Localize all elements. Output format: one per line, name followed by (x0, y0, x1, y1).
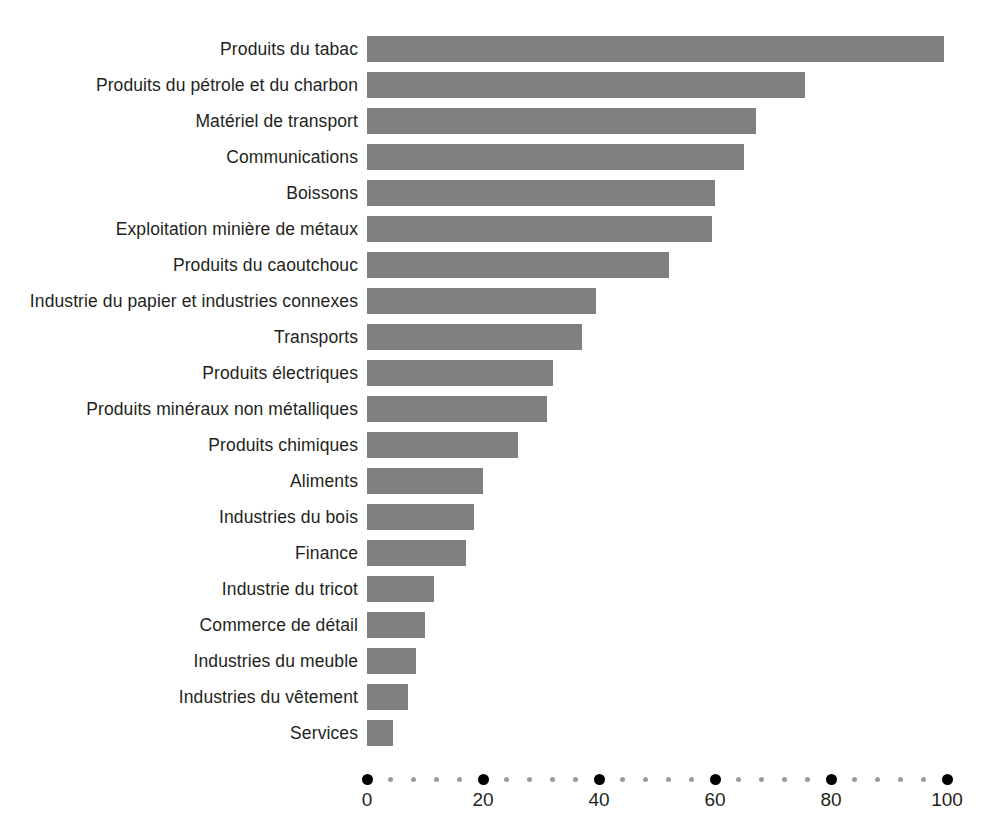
bar-row: Transports (0, 324, 990, 360)
axis-minor-tick-dot (759, 777, 764, 782)
axis-minor-tick-dot (875, 777, 880, 782)
bar (367, 684, 408, 710)
bar (367, 216, 712, 242)
bar-track (367, 684, 408, 710)
axis-minor-tick-dot (852, 777, 857, 782)
bar-row: Produits du pétrole et du charbon (0, 72, 990, 108)
bar (367, 612, 425, 638)
axis-minor-tick-dot (527, 777, 532, 782)
axis-minor-tick-dot (666, 777, 671, 782)
bar-row: Industrie du tricot (0, 576, 990, 612)
bar-category-label: Produits chimiques (208, 432, 358, 458)
bar-row: Produits du caoutchouc (0, 252, 990, 288)
bar-row: Industrie du papier et industries connex… (0, 288, 990, 324)
x-axis-tick-label: 100 (887, 789, 990, 811)
bar-row: Commerce de détail (0, 612, 990, 648)
bar-track (367, 288, 596, 314)
bar-row: Industries du vêtement (0, 684, 990, 720)
bar-category-label: Exploitation minière de métaux (116, 216, 358, 242)
bar-row: Industries du bois (0, 504, 990, 540)
bar (367, 144, 744, 170)
bar-track (367, 144, 744, 170)
bar (367, 72, 805, 98)
bar-track (367, 252, 669, 278)
x-axis-tick-label: 40 (539, 789, 659, 811)
bar-track (367, 576, 434, 602)
bar-category-label: Produits minéraux non métalliques (86, 396, 358, 422)
axis-major-tick-dot (478, 774, 489, 785)
bar-track (367, 540, 466, 566)
bar-category-label: Aliments (290, 468, 358, 494)
axis-minor-tick-dot (573, 777, 578, 782)
axis-minor-tick-dot (388, 777, 393, 782)
bar-row: Produits minéraux non métalliques (0, 396, 990, 432)
axis-minor-tick-dot (457, 777, 462, 782)
axis-minor-tick-dot (434, 777, 439, 782)
bar-track (367, 504, 474, 530)
bar (367, 540, 466, 566)
axis-major-tick-dot (594, 774, 605, 785)
bar (367, 180, 715, 206)
bar-row: Produits électriques (0, 360, 990, 396)
bar-category-label: Transports (274, 324, 358, 350)
axis-major-tick-dot (826, 774, 837, 785)
bar-category-label: Industries du bois (219, 504, 358, 530)
bar (367, 36, 944, 62)
axis-minor-tick-dot (736, 777, 741, 782)
x-axis: 020406080100 (0, 760, 990, 823)
bar-category-label: Produits du caoutchouc (173, 252, 358, 278)
bar-track (367, 216, 712, 242)
axis-minor-tick-dot (921, 777, 926, 782)
bar-row: Finance (0, 540, 990, 576)
x-axis-tick-label: 0 (307, 789, 427, 811)
bar-row: Communications (0, 144, 990, 180)
bar (367, 252, 669, 278)
bar-row: Aliments (0, 468, 990, 504)
bar (367, 720, 393, 746)
bar (367, 432, 518, 458)
bar-row: Exploitation minière de métaux (0, 216, 990, 252)
bar (367, 288, 596, 314)
bar-category-label: Finance (295, 540, 358, 566)
bar-category-label: Communications (226, 144, 358, 170)
bar-track (367, 720, 393, 746)
bar-category-label: Industrie du papier et industries connex… (30, 288, 358, 314)
bar (367, 324, 582, 350)
bar-category-label: Commerce de détail (200, 612, 358, 638)
bar-row: Boissons (0, 180, 990, 216)
bar-track (367, 180, 715, 206)
bar-category-label: Industries du vêtement (179, 684, 358, 710)
bar (367, 468, 483, 494)
bar-category-label: Produits du pétrole et du charbon (96, 72, 358, 98)
axis-minor-tick-dot (550, 777, 555, 782)
bar (367, 396, 547, 422)
bar-category-label: Industries du meuble (194, 648, 358, 674)
bar-track (367, 36, 944, 62)
bar (367, 648, 416, 674)
axis-major-tick-dot (710, 774, 721, 785)
axis-minor-tick-dot (643, 777, 648, 782)
axis-minor-tick-dot (504, 777, 509, 782)
bar-category-label: Produits du tabac (220, 36, 358, 62)
bar-track (367, 396, 547, 422)
bar-category-label: Matériel de transport (195, 108, 358, 134)
bar-row: Industries du meuble (0, 648, 990, 684)
x-axis-tick-label: 80 (771, 789, 891, 811)
bar-row: Services (0, 720, 990, 756)
bar-row: Produits du tabac (0, 36, 990, 72)
bar-row: Matériel de transport (0, 108, 990, 144)
bar-category-label: Industrie du tricot (222, 576, 358, 602)
bar-category-label: Boissons (286, 180, 358, 206)
bar (367, 576, 434, 602)
axis-minor-tick-dot (782, 777, 787, 782)
x-axis-tick-label: 60 (655, 789, 775, 811)
bar (367, 360, 553, 386)
bar-track (367, 468, 483, 494)
bar-track (367, 72, 805, 98)
bar-track (367, 360, 553, 386)
bar-track (367, 612, 425, 638)
bar-track (367, 432, 518, 458)
axis-minor-tick-dot (411, 777, 416, 782)
axis-minor-tick-dot (805, 777, 810, 782)
axis-minor-tick-dot (620, 777, 625, 782)
